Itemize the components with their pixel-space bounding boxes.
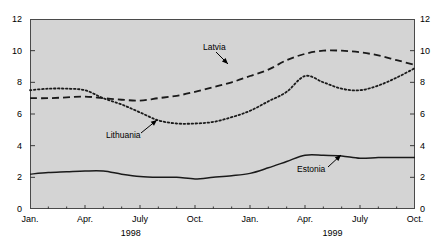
annotation-arrows (141, 52, 341, 167)
data-series-layer (30, 50, 415, 179)
x-axis-tick-label: Oct. (175, 214, 215, 224)
x-axis-tick-label: July (120, 214, 160, 224)
y-axis-tick-label-left: 0 (2, 204, 22, 214)
y-axis-tick-label-right: 0 (420, 204, 440, 214)
y-axis-tick-label-right: 6 (420, 109, 440, 119)
y-axis-tick-label-right: 12 (420, 14, 440, 24)
axis-ticks (30, 51, 415, 209)
series-annotation-label-latvia: Latvia (203, 42, 226, 52)
chart-overlay (0, 0, 446, 247)
chart-figure: 002244668810101212Jan.Apr.JulyOct.Jan.Ap… (0, 0, 446, 247)
y-axis-tick-label-left: 8 (2, 77, 22, 87)
y-axis-tick-label-left: 4 (2, 141, 22, 151)
y-axis-tick-label-right: 8 (420, 77, 440, 87)
x-axis-tick-label: Jan. (10, 214, 50, 224)
y-axis-tick-label-right: 2 (420, 172, 440, 182)
y-axis-tick-label-right: 10 (420, 46, 440, 56)
y-axis-tick-label-right: 4 (420, 141, 440, 151)
y-axis-tick-label-left: 6 (2, 109, 22, 119)
series-annotation-label-estonia: Estonia (297, 164, 325, 174)
x-axis-year-label: 1998 (106, 228, 156, 238)
x-axis-tick-label: July (340, 214, 380, 224)
x-axis-tick-label: Oct. (395, 214, 435, 224)
x-axis-year-label: 1999 (308, 228, 358, 238)
x-axis-tick-label: Apr. (65, 214, 105, 224)
y-axis-tick-label-left: 10 (2, 46, 22, 56)
y-axis-tick-label-left: 2 (2, 172, 22, 182)
series-annotation-label-lithuania: Lithuania (106, 130, 141, 140)
y-axis-tick-label-left: 12 (2, 14, 22, 24)
x-axis-tick-label: Apr. (285, 214, 325, 224)
series-line-estonia (30, 155, 415, 179)
x-axis-tick-label: Jan. (230, 214, 270, 224)
